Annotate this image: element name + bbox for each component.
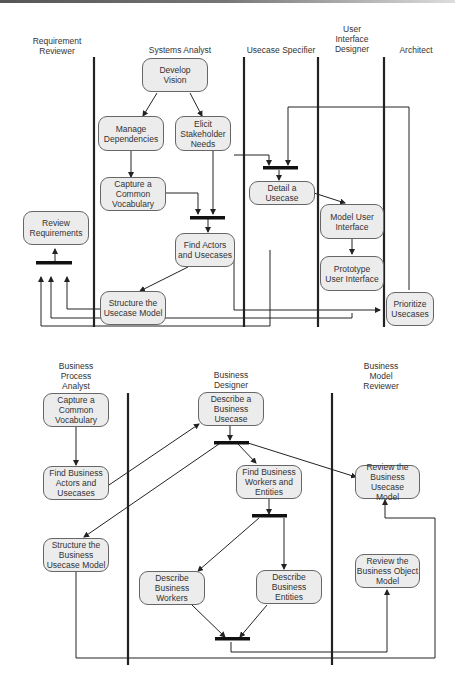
sync-bar [215, 637, 250, 641]
activity-capture-common-vocabulary-business[interactable]: Capture a Common Vocabulary [43, 393, 109, 427]
activity-develop-vision[interactable]: Develop Vision [142, 58, 208, 92]
activity-elicit-stakeholder-needs[interactable]: Elicit Stakeholder Needs [175, 116, 231, 151]
activity-prioritize-usecases[interactable]: Prioritize Usecases [386, 292, 434, 326]
activity-structure-business-usecase-model[interactable]: Structure the Business Usecase Model [43, 538, 109, 572]
lane-title-business-designer: Business Designer [200, 370, 262, 390]
sync-bar [263, 166, 298, 170]
lane-title-ui-designer: User Interface Designer [324, 24, 380, 54]
lane-title-business-model-reviewer: Business Model Reviewer [350, 361, 412, 391]
sync-bar [214, 441, 249, 445]
lane-title-business-process-analyst: Business Process Analyst [45, 361, 107, 391]
sync-bar [190, 216, 225, 220]
activity-structure-usecase-model[interactable]: Structure the Usecase Model [100, 291, 166, 325]
activity-review-requirements[interactable]: Review Requirements [23, 211, 89, 245]
activity-prototype-user-interface[interactable]: Prototype User Interface [320, 256, 384, 291]
activity-capture-common-vocabulary[interactable]: Capture a Common Vocabulary [100, 177, 166, 211]
activity-describe-business-usecase[interactable]: Describe a Business Usecase [198, 392, 264, 426]
activity-review-business-object-model[interactable]: Review the Business Object Model [355, 554, 420, 588]
activity-manage-dependencies[interactable]: Manage Dependencies [98, 116, 164, 151]
activity-detail-usecase[interactable]: Detail a Usecase [249, 181, 315, 205]
sync-bar [36, 261, 72, 265]
activity-find-business-actors-usecases[interactable]: Find Business Actors and Usecases [43, 466, 109, 500]
activity-find-business-workers-entities[interactable]: Find Business Workers and Entities [236, 465, 302, 499]
lane-title-architect: Architect [386, 45, 446, 55]
activity-review-business-usecase-model[interactable]: Review the Business Usecase Model [355, 465, 420, 499]
lane-title-systems-analyst: Systems Analyst [140, 45, 220, 55]
sync-bar [252, 514, 287, 518]
activity-model-user-interface[interactable]: Model User Interface [320, 204, 384, 239]
activity-describe-business-entities[interactable]: Describe Business Entities [256, 570, 322, 604]
lane-title-requirement-reviewer: Requirement Reviewer [22, 36, 92, 56]
lane-title-usecase-specifier: Usecase Specifier [246, 45, 316, 55]
activity-find-actors-usecases[interactable]: Find Actors and Usecases [175, 233, 235, 267]
activity-describe-business-workers[interactable]: Describe Business Workers [139, 571, 205, 605]
